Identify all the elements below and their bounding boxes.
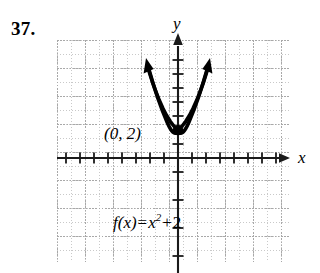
x-axis [57, 153, 290, 164]
figure-page: 37. [0, 0, 320, 273]
x-axis-arrowhead-right [279, 153, 290, 163]
function-equation-label: f(x)=x2+2 [113, 211, 181, 233]
y-axis-label: y [173, 14, 181, 34]
parabola-arrowhead-right [202, 58, 212, 74]
y-axis [173, 33, 184, 273]
vertex-point-marker [173, 125, 183, 135]
plus-sign: + [161, 213, 173, 232]
function-constant: 2 [173, 213, 182, 232]
function-base: x [148, 213, 156, 232]
problem-number: 37. [11, 18, 36, 40]
x-axis-label: x [298, 148, 306, 168]
function-argument: (x) [118, 213, 137, 232]
equals-sign: = [137, 213, 149, 232]
parabola-arrowhead-left [144, 58, 154, 74]
y-axis-arrowhead-top [173, 33, 183, 45]
vertex-point-label: (0, 2) [104, 124, 141, 144]
